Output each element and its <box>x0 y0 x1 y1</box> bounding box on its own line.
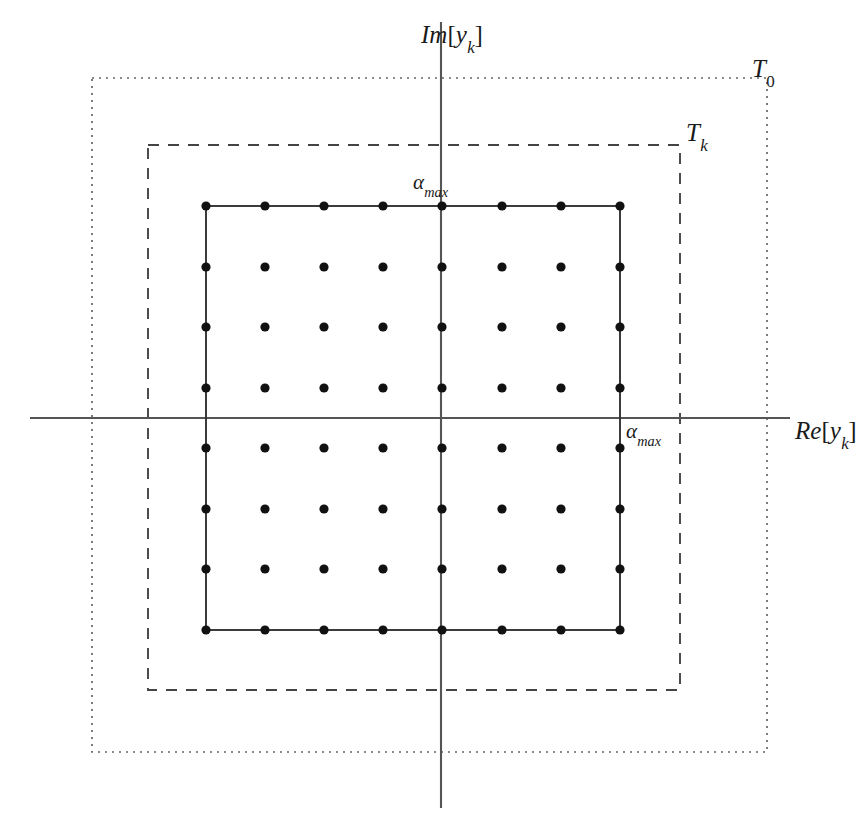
constellation-point <box>437 504 446 513</box>
constellation-point <box>556 564 565 573</box>
constellation-point <box>437 564 446 573</box>
constellation-point <box>319 625 328 634</box>
constellation-diagram: Im[yk] Re[yk] T0 Tk αmax αmax <box>0 0 860 832</box>
constellation-point <box>556 625 565 634</box>
im-subscript: k <box>467 38 475 57</box>
t0-symbol: T <box>752 55 766 82</box>
re-bracket-open: [ <box>821 417 829 444</box>
constellation-point <box>319 504 328 513</box>
constellation-point <box>437 201 446 210</box>
imaginary-axis-label: Im[yk] <box>421 22 483 52</box>
constellation-point <box>260 262 269 271</box>
alpha-subscript-real: max <box>637 433 661 449</box>
im-label-text: Im <box>421 21 447 48</box>
constellation-point <box>615 383 624 392</box>
im-bracket-open: [ <box>447 21 455 48</box>
constellation-point <box>260 201 269 210</box>
constellation-point <box>319 322 328 331</box>
constellation-point <box>201 443 210 452</box>
constellation-point <box>260 443 269 452</box>
constellation-point <box>260 504 269 513</box>
alpha-max-real-label: αmax <box>626 421 661 445</box>
constellation-point <box>497 262 506 271</box>
re-bracket-close: ] <box>848 417 856 444</box>
constellation-point <box>319 443 328 452</box>
constellation-point <box>615 322 624 331</box>
constellation-point <box>201 383 210 392</box>
constellation-point <box>556 322 565 331</box>
constellation-point <box>497 443 506 452</box>
constellation-point <box>378 201 387 210</box>
constellation-point <box>437 262 446 271</box>
constellation-point <box>378 625 387 634</box>
constellation-point <box>201 262 210 271</box>
constellation-point <box>437 625 446 634</box>
constellation-point <box>497 322 506 331</box>
im-bracket-close: ] <box>474 21 482 48</box>
constellation-point <box>378 383 387 392</box>
constellation-point <box>260 322 269 331</box>
constellation-point <box>497 201 506 210</box>
constellation-point <box>497 383 506 392</box>
constellation-point <box>260 383 269 392</box>
constellation-point <box>201 201 210 210</box>
constellation-point <box>378 322 387 331</box>
re-variable: y <box>830 417 841 444</box>
tk-subscript: k <box>700 136 708 155</box>
constellation-point <box>260 625 269 634</box>
constellation-point <box>497 625 506 634</box>
constellation-point <box>556 504 565 513</box>
constellation-point <box>378 262 387 271</box>
constellation-point <box>437 383 446 392</box>
constellation-point <box>437 322 446 331</box>
alpha-subscript-imag: max <box>424 184 448 200</box>
constellation-point <box>201 625 210 634</box>
constellation-point <box>201 564 210 573</box>
t0-subscript: 0 <box>766 72 775 91</box>
real-axis-label: Re[yk] <box>795 418 857 448</box>
constellation-point <box>556 262 565 271</box>
constellation-point <box>319 564 328 573</box>
alpha-symbol-imag: α <box>413 170 424 194</box>
tk-symbol: T <box>686 119 700 146</box>
constellation-point <box>615 201 624 210</box>
constellation-point <box>556 443 565 452</box>
constellation-point <box>378 504 387 513</box>
constellation-point <box>615 262 624 271</box>
re-subscript: k <box>841 434 849 453</box>
constellation-point <box>437 443 446 452</box>
constellation-point <box>615 625 624 634</box>
alpha-symbol-real: α <box>626 419 637 443</box>
constellation-point <box>556 383 565 392</box>
alpha-max-imag-label: αmax <box>413 172 448 196</box>
im-variable: y <box>456 21 467 48</box>
constellation-point <box>378 564 387 573</box>
constellation-point <box>556 201 565 210</box>
constellation-point <box>615 564 624 573</box>
constellation-point <box>201 322 210 331</box>
constellation-point <box>319 262 328 271</box>
constellation-point <box>260 564 269 573</box>
constellation-point <box>378 443 387 452</box>
constellation-point <box>615 443 624 452</box>
constellation-point <box>201 504 210 513</box>
constellation-point <box>319 383 328 392</box>
re-label-text: Re <box>795 417 821 444</box>
region-Tk-label: Tk <box>686 120 707 150</box>
constellation-point <box>319 201 328 210</box>
diagram-canvas <box>0 0 860 832</box>
constellation-point <box>497 504 506 513</box>
region-T0-label: T0 <box>752 56 774 86</box>
constellation-point <box>615 504 624 513</box>
constellation-point <box>497 564 506 573</box>
